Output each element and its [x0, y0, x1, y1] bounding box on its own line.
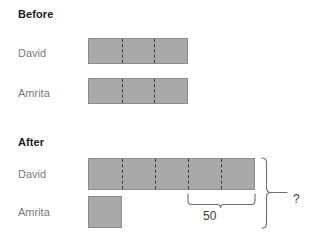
section-title-after: After	[18, 136, 44, 148]
section-title-before: Before	[18, 8, 53, 20]
row-label-before-amrita: Amrita	[18, 87, 50, 99]
row-label-before-david: David	[18, 47, 46, 59]
bar-after-david	[88, 158, 255, 190]
segment-divider	[122, 159, 123, 189]
segment-divider	[155, 159, 156, 189]
segment-divider	[154, 79, 155, 103]
under-brace-50	[188, 194, 255, 208]
segment-divider	[122, 79, 123, 103]
bar-before-amrita	[88, 78, 188, 104]
annotation-label-question: ?	[293, 192, 300, 206]
row-label-after-david: David	[18, 168, 46, 180]
right-brace-question	[262, 158, 287, 228]
bar-before-david	[88, 38, 188, 64]
bar-model-diagram: Before David Amrita After David Amrita 5…	[0, 0, 333, 248]
segment-divider	[188, 159, 189, 189]
segment-divider	[122, 39, 123, 63]
segment-divider	[154, 39, 155, 63]
annotation-label-50: 50	[203, 209, 216, 223]
row-label-after-amrita: Amrita	[18, 206, 50, 218]
bar-after-amrita	[88, 196, 122, 228]
segment-divider	[221, 159, 222, 189]
